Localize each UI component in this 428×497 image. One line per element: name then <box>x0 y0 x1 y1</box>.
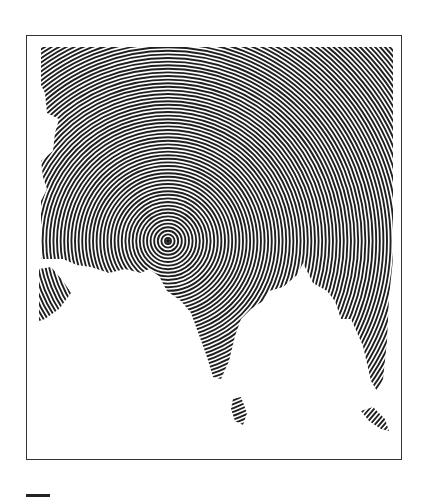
map-frame <box>26 35 402 460</box>
center-dot <box>166 239 170 243</box>
landmass <box>27 36 403 461</box>
concentric-map <box>27 36 403 461</box>
